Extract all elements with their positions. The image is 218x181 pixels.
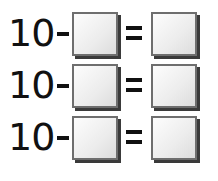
equation-row-3: 10 bbox=[0, 115, 218, 161]
minuend: 10 bbox=[8, 13, 54, 53]
minus-sign-icon bbox=[57, 84, 69, 88]
result-answer-box[interactable] bbox=[151, 64, 197, 108]
minus-sign-icon bbox=[57, 32, 69, 36]
equals-sign-icon bbox=[126, 26, 142, 40]
equation-row-1: 10 bbox=[0, 11, 218, 57]
result-answer-box[interactable] bbox=[151, 116, 197, 160]
subtrahend-answer-box[interactable] bbox=[72, 12, 118, 56]
equals-sign-icon bbox=[126, 130, 142, 144]
subtrahend-answer-box[interactable] bbox=[72, 116, 118, 160]
equals-sign-icon bbox=[126, 78, 142, 92]
minus-sign-icon bbox=[57, 136, 69, 140]
equation-row-2: 10 bbox=[0, 63, 218, 109]
minuend: 10 bbox=[8, 117, 54, 157]
result-answer-box[interactable] bbox=[151, 12, 197, 56]
subtrahend-answer-box[interactable] bbox=[72, 64, 118, 108]
minuend: 10 bbox=[8, 65, 54, 105]
